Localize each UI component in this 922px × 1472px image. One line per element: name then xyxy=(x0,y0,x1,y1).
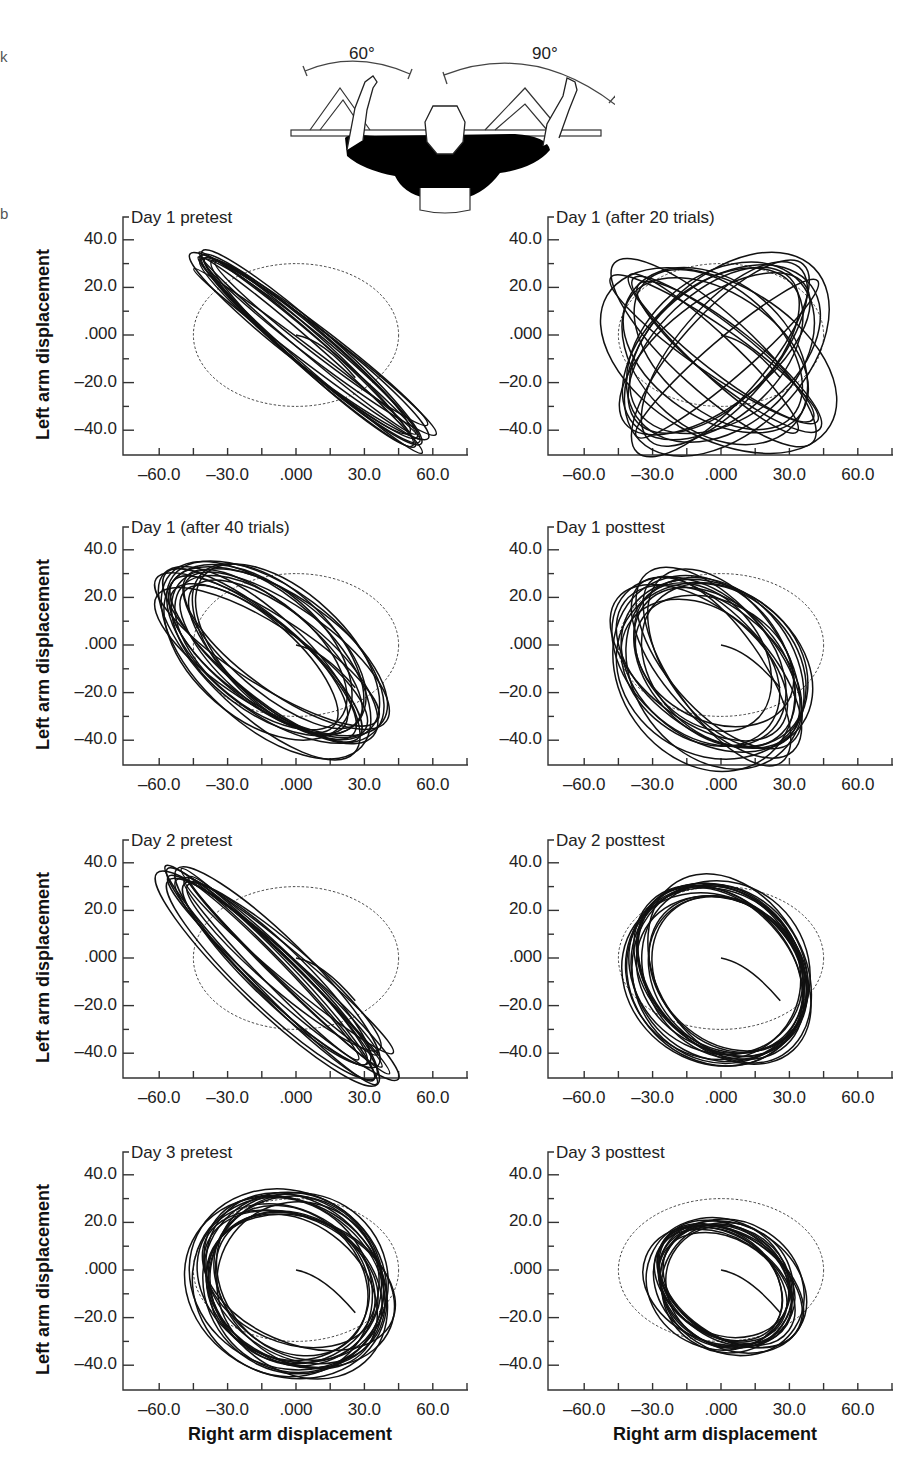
trajectory-loops xyxy=(588,844,846,1103)
y-tick-label: 40.0 xyxy=(482,852,542,872)
y-tick-label: .000 xyxy=(482,947,542,967)
y-tick-label: 20.0 xyxy=(482,1211,542,1231)
y-tick-label: .000 xyxy=(57,324,117,344)
y-tick-label: .000 xyxy=(482,324,542,344)
y-tick-label: .000 xyxy=(482,1259,542,1279)
y-tick-label: –40.0 xyxy=(57,1042,117,1062)
x-tick-label: –30.0 xyxy=(198,1088,258,1108)
trajectory-loops xyxy=(137,848,412,1104)
y-tick-label: 20.0 xyxy=(57,1211,117,1231)
x-tick-label: 30.0 xyxy=(334,1400,394,1420)
y-tick-label: –40.0 xyxy=(57,419,117,439)
trajectory-loops xyxy=(625,1192,831,1383)
panel-title: Day 1 (after 40 trials) xyxy=(131,518,290,538)
x-tick-label: .000 xyxy=(691,1400,751,1420)
y-tick-label: –20.0 xyxy=(57,682,117,702)
y-tick-label: –40.0 xyxy=(482,1042,542,1062)
x-tick-label: 30.0 xyxy=(759,1088,819,1108)
panel-title: Day 2 posttest xyxy=(556,831,665,851)
x-tick-label: –30.0 xyxy=(623,1088,683,1108)
y-tick-label: –20.0 xyxy=(482,372,542,392)
y-axis-label: Left arm displacement xyxy=(33,872,54,1063)
y-tick-label: .000 xyxy=(57,634,117,654)
x-tick-label: .000 xyxy=(266,465,326,485)
bimanual-task-illustration: 60° 90° xyxy=(285,38,615,218)
y-tick-label: .000 xyxy=(57,947,117,967)
x-tick-label: 30.0 xyxy=(334,1088,394,1108)
y-tick-label: –20.0 xyxy=(482,1307,542,1327)
y-tick-label: –20.0 xyxy=(482,995,542,1015)
y-tick-label: 40.0 xyxy=(482,1164,542,1184)
margin-mark-a: k xyxy=(0,48,8,65)
x-tick-label: .000 xyxy=(691,1088,751,1108)
x-tick-label: –30.0 xyxy=(623,775,683,795)
x-tick-label: 60.0 xyxy=(828,1400,888,1420)
x-axis-label: Right arm displacement xyxy=(140,1424,440,1445)
right-angle-label: 90° xyxy=(532,44,558,64)
x-tick-label: .000 xyxy=(691,465,751,485)
y-tick-label: 20.0 xyxy=(482,899,542,919)
x-tick-label: –30.0 xyxy=(623,1400,683,1420)
x-tick-label: .000 xyxy=(266,1400,326,1420)
y-tick-label: –20.0 xyxy=(57,1307,117,1327)
y-tick-label: 20.0 xyxy=(482,276,542,296)
y-tick-label: –40.0 xyxy=(57,729,117,749)
x-tick-label: .000 xyxy=(266,775,326,795)
x-tick-label: –30.0 xyxy=(198,465,258,485)
left-angle-label: 60° xyxy=(349,44,375,64)
x-tick-label: .000 xyxy=(266,1088,326,1108)
y-tick-label: 40.0 xyxy=(57,539,117,559)
y-axis-label: Left arm displacement xyxy=(33,559,54,750)
x-tick-label: –30.0 xyxy=(198,775,258,795)
panel-title: Day 3 posttest xyxy=(556,1143,665,1163)
trajectory-loops xyxy=(127,526,414,794)
x-tick-label: 60.0 xyxy=(828,775,888,795)
x-tick-label: –60.0 xyxy=(129,1400,189,1420)
x-tick-label: 60.0 xyxy=(828,465,888,485)
x-tick-label: 30.0 xyxy=(759,1400,819,1420)
x-tick-label: –30.0 xyxy=(198,1400,258,1420)
x-tick-label: –60.0 xyxy=(554,1400,614,1420)
panel-title: Day 1 (after 20 trials) xyxy=(556,208,715,228)
x-tick-label: –60.0 xyxy=(129,465,189,485)
phase-plot-panel: Day 1 (after 40 trials)40.020.0.000–20.0… xyxy=(0,515,460,825)
y-tick-label: 20.0 xyxy=(482,586,542,606)
phase-plot-panel: Day 3 pretest40.020.0.000–20.0–40.0–60.0… xyxy=(0,1140,460,1450)
phase-plot-panel: Day 2 pretest40.020.0.000–20.0–40.0–60.0… xyxy=(0,828,460,1138)
trajectory-loops xyxy=(575,540,845,807)
x-tick-label: –60.0 xyxy=(129,775,189,795)
x-tick-label: –30.0 xyxy=(623,465,683,485)
y-tick-label: –40.0 xyxy=(482,1354,542,1374)
y-tick-label: 40.0 xyxy=(482,229,542,249)
x-tick-label: 30.0 xyxy=(334,465,394,485)
phase-plot-panel: Day 2 posttest40.020.0.000–20.0–40.0–60.… xyxy=(425,828,885,1138)
x-tick-label: –60.0 xyxy=(554,465,614,485)
y-tick-label: 40.0 xyxy=(57,852,117,872)
phase-plot-panel: Day 1 posttest40.020.0.000–20.0–40.0–60.… xyxy=(425,515,885,825)
y-axis-label: Left arm displacement xyxy=(33,1184,54,1375)
y-tick-label: 20.0 xyxy=(57,899,117,919)
x-tick-label: 30.0 xyxy=(334,775,394,795)
y-tick-label: –40.0 xyxy=(57,1354,117,1374)
person-at-table-icon xyxy=(285,38,615,218)
y-tick-label: –20.0 xyxy=(57,995,117,1015)
phase-plot-panel: Day 1 pretest40.020.0.000–20.0–40.0–60.0… xyxy=(0,205,460,515)
y-tick-label: 40.0 xyxy=(57,1164,117,1184)
trajectory-loops xyxy=(153,1155,425,1416)
phase-plot-panel: Day 3 posttest40.020.0.000–20.0–40.0–60.… xyxy=(425,1140,885,1450)
y-tick-label: –20.0 xyxy=(482,682,542,702)
y-tick-label: 40.0 xyxy=(482,539,542,559)
x-tick-label: 30.0 xyxy=(759,775,819,795)
x-axis-label: Right arm displacement xyxy=(565,1424,865,1445)
y-tick-label: 20.0 xyxy=(57,586,117,606)
y-tick-label: .000 xyxy=(482,634,542,654)
panel-title: Day 2 pretest xyxy=(131,831,232,851)
x-tick-label: –60.0 xyxy=(129,1088,189,1108)
x-tick-label: .000 xyxy=(691,775,751,795)
panel-title: Day 1 posttest xyxy=(556,518,665,538)
y-tick-label: –40.0 xyxy=(482,729,542,749)
axes xyxy=(548,1152,893,1390)
y-tick-label: –40.0 xyxy=(482,419,542,439)
panel-title: Day 1 pretest xyxy=(131,208,232,228)
y-tick-label: 20.0 xyxy=(57,276,117,296)
